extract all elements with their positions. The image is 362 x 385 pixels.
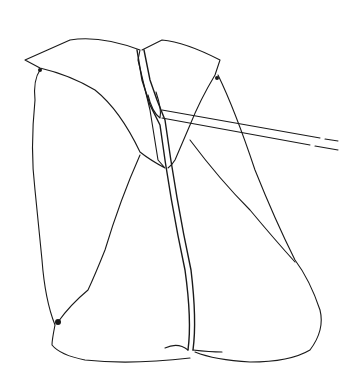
- rod-lower: [162, 118, 310, 145]
- shading-mark-right: [215, 76, 219, 80]
- upper-right-flap: [142, 40, 220, 168]
- shading-mark-top: [38, 68, 42, 72]
- rod-dash-2: [315, 146, 338, 150]
- line-drawing: [0, 0, 362, 385]
- bottom-crease-left: [165, 345, 188, 350]
- shading-mark: [55, 319, 61, 325]
- bottom-crease-right: [193, 350, 222, 352]
- central-strand-left: [137, 50, 189, 350]
- right-fold-line: [190, 140, 295, 262]
- left-lobe-outline: [33, 70, 191, 362]
- upper-left-flap: [25, 39, 165, 168]
- illustration: [0, 0, 362, 385]
- left-fold-line: [58, 155, 140, 322]
- rod-dash-1: [325, 139, 338, 141]
- central-strand-right: [144, 50, 195, 350]
- right-lobe-outline: [195, 75, 321, 362]
